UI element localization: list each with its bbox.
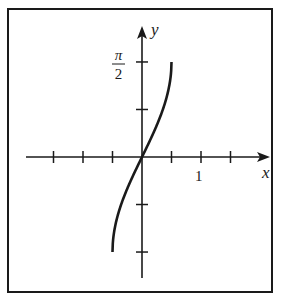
x-axis-label: x bbox=[261, 163, 270, 182]
x-tick-label-1: 1 bbox=[195, 168, 203, 184]
y-axis-label: y bbox=[149, 20, 159, 39]
plot-area: x y 1 π 2 bbox=[0, 0, 284, 306]
y-tick-label-denominator: 2 bbox=[115, 66, 123, 82]
y-tick-label-numerator: π bbox=[115, 47, 123, 63]
axes bbox=[26, 26, 270, 278]
y-tick-label-pi-over-2: π 2 bbox=[112, 47, 125, 82]
